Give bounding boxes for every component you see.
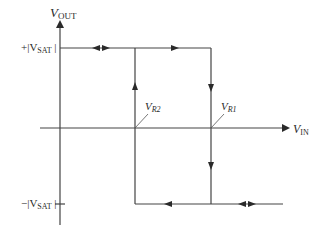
hysteresis-diagram: VOUT VIN +|VSAT | −|VSAT | VR2 VR1 xyxy=(0,0,320,233)
y-axis-label: VOUT xyxy=(50,5,77,21)
arrow-left-icon xyxy=(164,201,172,207)
y-axis xyxy=(56,20,64,225)
vr2-leader-line xyxy=(135,114,148,128)
x-axis xyxy=(40,124,290,132)
vr1-label: VR1 xyxy=(221,100,237,114)
x-axis-label: VIN xyxy=(293,122,309,137)
arrow-left-icon xyxy=(238,201,246,207)
y-axis-arrow-icon xyxy=(56,20,64,28)
positive-sat-label: +|VSAT | xyxy=(21,41,57,55)
arrow-up-icon xyxy=(132,82,138,90)
arrow-down-icon xyxy=(208,162,214,170)
arrow-left-icon xyxy=(92,45,100,51)
arrow-right-icon xyxy=(171,45,179,51)
negative-saturation-line xyxy=(135,201,283,207)
arrow-right-icon xyxy=(248,201,256,207)
vr2-label: VR2 xyxy=(145,100,161,114)
vr1-leader-line xyxy=(211,114,224,128)
negative-sat-label: −|VSAT | xyxy=(21,197,57,211)
x-axis-arrow-icon xyxy=(282,124,290,132)
arrow-right-icon xyxy=(102,45,110,51)
arrow-down-icon xyxy=(208,84,214,92)
